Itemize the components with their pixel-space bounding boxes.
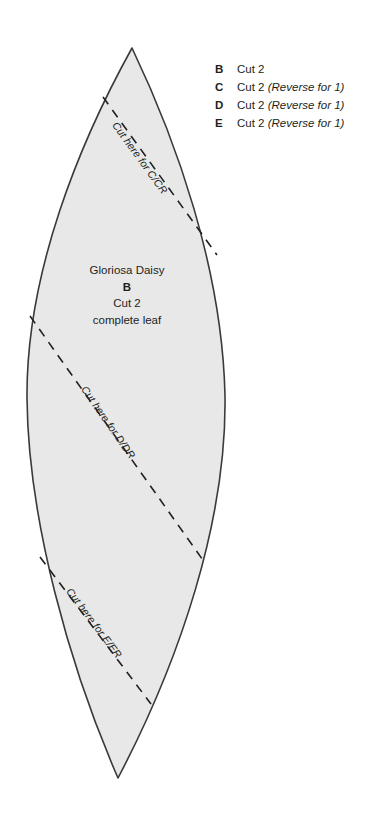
legend-row: D Cut 2 (Reverse for 1) — [215, 99, 375, 117]
legend-description: Cut 2 (Reverse for 1) — [237, 81, 344, 93]
leaf-piece-letter: B — [36, 279, 218, 296]
leaf-description: complete leaf — [36, 312, 218, 329]
legend-description: Cut 2 — [237, 63, 265, 75]
legend-quantity: Cut 2 — [237, 99, 265, 111]
legend-key: D — [215, 99, 237, 111]
legend-key: C — [215, 81, 237, 93]
legend-note: (Reverse for 1) — [268, 99, 345, 111]
leaf-outline — [27, 48, 225, 778]
legend-row: B Cut 2 — [215, 63, 375, 81]
legend-description: Cut 2 (Reverse for 1) — [237, 117, 344, 129]
legend-key: B — [215, 63, 237, 75]
legend-key: E — [215, 117, 237, 129]
legend-description: Cut 2 (Reverse for 1) — [237, 99, 344, 111]
pattern-legend: B Cut 2 C Cut 2 (Reverse for 1) D Cut 2 … — [215, 63, 375, 135]
legend-row: C Cut 2 (Reverse for 1) — [215, 81, 375, 99]
leaf-name: Gloriosa Daisy — [36, 262, 218, 279]
pattern-sheet: Gloriosa Daisy B Cut 2 complete leaf Cut… — [0, 0, 377, 820]
legend-note: (Reverse for 1) — [268, 81, 345, 93]
leaf-center-label: Gloriosa Daisy B Cut 2 complete leaf — [36, 262, 218, 329]
legend-quantity: Cut 2 — [237, 63, 265, 75]
legend-quantity: Cut 2 — [237, 81, 265, 93]
legend-row: E Cut 2 (Reverse for 1) — [215, 117, 375, 135]
leaf-quantity: Cut 2 — [36, 295, 218, 312]
legend-quantity: Cut 2 — [237, 117, 265, 129]
legend-note: (Reverse for 1) — [268, 117, 345, 129]
